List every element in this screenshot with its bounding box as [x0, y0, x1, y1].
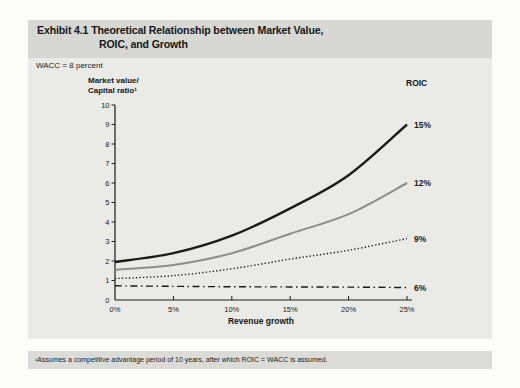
page-background: Exhibit 4.1 Theoretical Relationship bet…: [0, 0, 520, 388]
footnote-text: ¹Assumes a competitive advantage period …: [35, 356, 328, 363]
y-axis-tick-label: 4: [105, 218, 109, 227]
y-axis-tick-label: 6: [105, 179, 109, 188]
y-axis-tick-label: 10: [101, 101, 109, 110]
footnote-band: ¹Assumes a competitive advantage period …: [28, 351, 492, 369]
y-axis-tick-label: 2: [105, 257, 109, 266]
curve-label-roic-12%: 12%: [414, 178, 431, 188]
curve-roic-15%: [115, 125, 407, 262]
y-axis-tick-label: 3: [105, 237, 109, 246]
y-axis-tick-label: 8: [105, 140, 109, 149]
curve-roic-6%: [115, 286, 407, 288]
x-axis-tick-label: 10%: [224, 305, 239, 314]
chart-plot-area: 0123456789100%5%10%15%20%25%15%12%9%6%: [0, 0, 520, 388]
curve-label-roic-9%: 9%: [414, 234, 427, 244]
x-axis-tick-label: 0%: [110, 305, 121, 314]
x-axis-tick-label: 15%: [283, 305, 298, 314]
curve-label-roic-15%: 15%: [414, 120, 431, 130]
y-axis-tick-label: 7: [105, 159, 109, 168]
y-axis-tick-label: 1: [105, 276, 109, 285]
curve-label-roic-6%: 6%: [414, 283, 427, 293]
x-axis-tick-label: 25%: [399, 305, 414, 314]
x-axis-title: Revenue growth: [200, 316, 322, 326]
x-axis-tick-label: 5%: [168, 305, 179, 314]
x-axis-tick-label: 20%: [341, 305, 356, 314]
y-axis-tick-label: 0: [105, 296, 109, 305]
y-axis-tick-label: 9: [105, 120, 109, 129]
y-axis-tick-label: 5: [105, 198, 109, 207]
